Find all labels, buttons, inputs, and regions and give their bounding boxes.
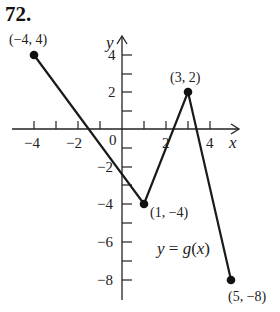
y-tick-label: −6 [97, 234, 113, 250]
y-tick-label: 2 [108, 84, 116, 100]
y-tick-label: −4 [97, 196, 113, 212]
point-marker [140, 200, 149, 209]
point-label: (5, −8) [228, 289, 267, 305]
x-axis-label: x [228, 133, 237, 152]
x-tick-label: −2 [66, 135, 82, 151]
x-axis [12, 121, 239, 134]
x-tick-label: 0 [109, 132, 117, 148]
point-marker [227, 276, 236, 285]
point-marker [184, 88, 193, 97]
point-label: (−4, 4) [9, 32, 48, 48]
function-graph: −4 −2 0 2 4 4 2 −2 −4 −6 −8 x y (−4, 4) … [0, 0, 280, 312]
point-label: (3, 2) [170, 70, 201, 86]
function-label: y = g(x) [155, 239, 210, 258]
y-tick-label: −2 [97, 159, 113, 175]
x-tick-label: −4 [24, 135, 40, 151]
y-tick-label: −8 [97, 272, 113, 288]
y-axis-label: y [104, 33, 114, 52]
x-tick-label: 4 [206, 135, 214, 151]
point-label: (1, −4) [150, 205, 189, 221]
point-marker [30, 51, 39, 60]
y-axis [117, 36, 132, 300]
